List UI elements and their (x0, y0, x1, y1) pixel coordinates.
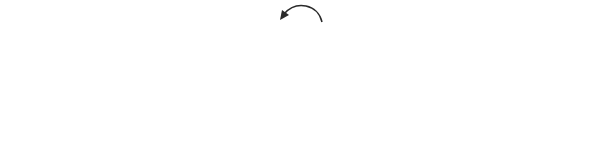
curved-arrow-icon (0, 0, 602, 40)
